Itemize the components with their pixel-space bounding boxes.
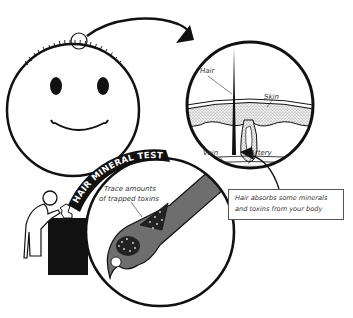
callout-line-1: Hair absorbs some minerals bbox=[235, 193, 343, 204]
right-eye bbox=[97, 77, 109, 95]
callout-line-2: and toxins from your body bbox=[235, 204, 343, 215]
arrow-to-magnified-view bbox=[87, 19, 194, 43]
lab-bench bbox=[48, 218, 88, 275]
smiley-face bbox=[7, 33, 139, 176]
left-eye bbox=[50, 77, 62, 95]
label-vein: Vein bbox=[203, 149, 218, 157]
label-skin: Skin bbox=[264, 93, 279, 101]
magnified-skin-view: Hair Skin Vein Artery bbox=[180, 42, 320, 189]
label-trace-amounts-2: of trapped toxins bbox=[99, 195, 159, 203]
label-hair: Hair bbox=[200, 67, 215, 75]
callout-box: Hair absorbs some minerals and toxins fr… bbox=[228, 189, 344, 220]
label-trace-amounts-1: Trace amounts bbox=[104, 185, 156, 193]
